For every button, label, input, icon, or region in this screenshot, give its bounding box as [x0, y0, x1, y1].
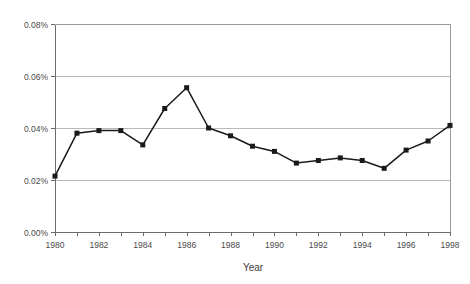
y-axis-tick-label: 0.06% — [24, 72, 49, 82]
y-axis-tick-label: 0.02% — [24, 176, 49, 186]
y-axis-tick-label: 0.08% — [24, 20, 49, 30]
x-axis-tick-label: 1980 — [46, 240, 65, 250]
x-axis-tick-label: 1998 — [441, 240, 460, 250]
data-point-marker — [162, 106, 167, 111]
x-axis-tick-label: 1994 — [353, 240, 372, 250]
data-point-marker — [96, 128, 101, 133]
data-point-marker — [404, 148, 409, 153]
data-point-marker — [338, 155, 343, 160]
data-point-marker — [272, 149, 277, 154]
x-axis-tick-label: 1984 — [133, 240, 152, 250]
x-axis-tick-label: 1992 — [309, 240, 328, 250]
x-axis-title: Year — [243, 262, 264, 273]
data-point-marker — [360, 158, 365, 163]
data-point-marker — [53, 174, 58, 179]
x-axis-tick-label: 1988 — [221, 240, 240, 250]
y-axis-tick-label: 0.04% — [24, 124, 49, 134]
data-point-marker — [184, 85, 189, 90]
data-point-marker — [74, 131, 79, 136]
x-axis-tick-label: 1990 — [265, 240, 284, 250]
data-point-marker — [206, 126, 211, 131]
x-axis-tick-label: 1982 — [89, 240, 108, 250]
chart-svg: 0.00%0.02%0.04%0.06%0.08% 19801982198419… — [0, 0, 470, 284]
data-point-marker — [316, 158, 321, 163]
data-point-marker — [118, 128, 123, 133]
line-chart: 0.00%0.02%0.04%0.06%0.08% 19801982198419… — [0, 0, 470, 284]
x-axis-tick-label: 1986 — [177, 240, 196, 250]
data-point-marker — [448, 123, 453, 128]
data-point-marker — [228, 133, 233, 138]
x-axis-tick-label: 1996 — [397, 240, 416, 250]
data-point-marker — [382, 166, 387, 171]
data-point-marker — [426, 139, 431, 144]
data-point-marker — [250, 144, 255, 149]
y-axis-tick-label: 0.00% — [24, 228, 49, 238]
data-point-marker — [140, 142, 145, 147]
data-point-marker — [294, 161, 299, 166]
